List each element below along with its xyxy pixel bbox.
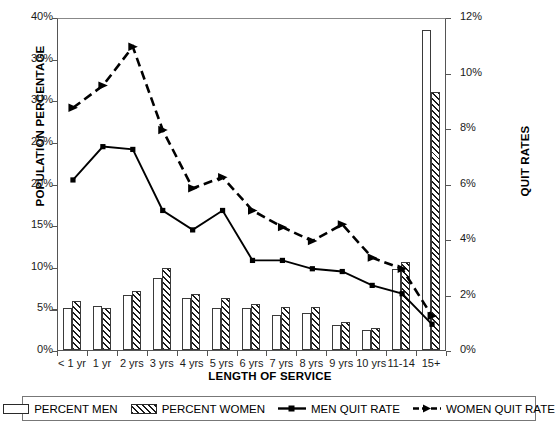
men-quit-rate-marker: [250, 258, 255, 263]
x-axis-tick-mark: [266, 351, 267, 356]
x-axis-tick-mark: [296, 351, 297, 356]
y-axis-left-tick-label: 0%: [37, 343, 53, 355]
x-axis-tick-labels: < 1 yr1 yr2 yrs3 yrs4 yrs5 yrs6 yrs7 yrs…: [40, 357, 510, 375]
men-quit-rate-marker: [160, 208, 165, 213]
y-axis-right-tick-mark: [446, 74, 451, 75]
y-axis-right-tick-label: 12%: [460, 10, 482, 22]
legend-item-men-quit-rate: MEN QUIT RATE: [278, 403, 400, 415]
women-quit-rate-marker: [428, 312, 438, 320]
x-axis-tick-mark: [207, 351, 208, 356]
y-axis-right-tick-label: 4%: [460, 232, 476, 244]
solid-line-square-marker-icon: [278, 403, 306, 414]
men-quit-rate-marker: [130, 147, 135, 152]
men-quit-rate-marker: [100, 144, 105, 149]
bar-hatched-swatch-icon: [131, 404, 157, 414]
women-quit-rate-marker: [188, 184, 198, 192]
y-axis-right-tick-mark: [446, 240, 451, 241]
x-axis-tick-mark: [117, 351, 118, 356]
x-axis-tick-mark: [237, 351, 238, 356]
x-axis-tick-mark: [177, 351, 178, 356]
y-axis-left-tick-mark: [52, 143, 57, 144]
x-axis-tick-mark: [356, 351, 357, 356]
women-quit-rate-marker: [398, 265, 408, 273]
women-quit-rate-marker: [98, 81, 108, 89]
women-quit-rate-marker: [368, 253, 378, 261]
women-quit-rate-marker: [248, 206, 258, 214]
y-axis-right-tick-mark: [446, 18, 451, 19]
y-axis-left-tick-mark: [52, 309, 57, 310]
y-axis-right-title: QUIT RATES: [519, 96, 531, 226]
y-axis-right-tick-label: 6%: [460, 177, 476, 189]
line-series-group: [58, 19, 447, 352]
legend-item-women-quit-rate: WOMEN QUIT RATE: [413, 403, 555, 415]
y-axis-left-tick-label: 40%: [31, 10, 53, 22]
y-axis-right-tick-labels: 0%2%4%6%8%10%12%: [450, 0, 510, 369]
y-axis-left-tick-label: 20%: [31, 177, 53, 189]
legend-item-percent-men: PERCENT MEN: [3, 403, 118, 415]
x-axis-tick-mark: [326, 351, 327, 356]
y-axis-left-tick-label: 25%: [31, 135, 53, 147]
y-axis-right-tick-label: 0%: [460, 343, 476, 355]
y-axis-left-tick-label: 30%: [31, 93, 53, 105]
men-quit-rate-marker: [429, 322, 434, 327]
y-axis-right-tick-mark: [446, 351, 451, 352]
men-quit-rate-marker: [310, 266, 315, 271]
men-quit-rate-marker: [280, 258, 285, 263]
y-axis-left-tick-label: 35%: [31, 52, 53, 64]
plot-area: [57, 18, 446, 351]
y-axis-left-tick-label: 10%: [31, 260, 53, 272]
legend-label: WOMEN QUIT RATE: [446, 403, 555, 415]
x-axis-tick-label: 15+: [409, 357, 453, 369]
men-quit-rate-marker: [190, 227, 195, 232]
y-axis-left-tick-mark: [52, 226, 57, 227]
legend-item-percent-women: PERCENT WOMEN: [131, 403, 265, 415]
y-axis-right-tick-label: 2%: [460, 288, 476, 300]
y-axis-left-tick-mark: [52, 18, 57, 19]
women-quit-rate-line: [73, 47, 432, 316]
x-axis-tick-mark: [147, 351, 148, 356]
men-quit-rate-marker: [340, 269, 345, 274]
x-axis-tick-mark: [57, 351, 58, 356]
bar-open-swatch-icon: [3, 404, 29, 414]
y-axis-left-tick-mark: [52, 268, 57, 269]
y-axis-left-tick-mark: [52, 185, 57, 186]
legend-label: MEN QUIT RATE: [311, 403, 400, 415]
men-quit-rate-line: [73, 147, 432, 325]
y-axis-left-tick-mark: [52, 101, 57, 102]
men-quit-rate-marker: [400, 291, 405, 296]
women-quit-rate-marker: [308, 237, 318, 245]
men-quit-rate-marker: [220, 208, 225, 213]
x-axis-tick-mark: [386, 351, 387, 356]
x-axis-tick-mark: [416, 351, 417, 356]
dashed-line-triangle-marker-icon: [413, 403, 441, 414]
y-axis-right-tick-label: 8%: [460, 121, 476, 133]
y-axis-left-tick-label: 5%: [37, 301, 53, 313]
y-axis-right-tick-label: 10%: [460, 66, 482, 78]
y-axis-left-tick-labels: 0%5%10%15%20%25%30%35%40%: [0, 0, 53, 369]
y-axis-right-tick-mark: [446, 129, 451, 130]
chart-figure: POPULATION PERCENTAGE QUIT RATES LENGTH …: [0, 0, 558, 431]
women-quit-rate-marker: [218, 173, 228, 181]
y-axis-right-tick-mark: [446, 185, 451, 186]
y-axis-left-tick-mark: [52, 60, 57, 61]
men-quit-rate-marker: [370, 283, 375, 288]
y-axis-right-tick-mark: [446, 296, 451, 297]
legend-label: PERCENT MEN: [34, 403, 118, 415]
men-quit-rate-marker: [70, 177, 75, 182]
chart-legend: PERCENT MEN PERCENT WOMEN MEN QUIT RATE …: [22, 396, 536, 421]
legend-label: PERCENT WOMEN: [162, 403, 265, 415]
y-axis-left-tick-mark: [52, 351, 57, 352]
y-axis-left-tick-label: 15%: [31, 218, 53, 230]
x-axis-tick-mark: [87, 351, 88, 356]
